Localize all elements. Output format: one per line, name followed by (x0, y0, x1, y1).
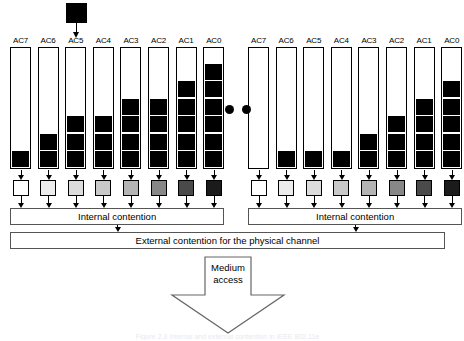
ac-label-ac3: AC3 (357, 36, 381, 45)
queue-to-backoff-arrow (397, 170, 398, 176)
queue-cell (12, 151, 29, 167)
queue-to-backoff-arrow (159, 170, 160, 176)
queue-cell (150, 134, 167, 150)
queue-cell (388, 134, 405, 150)
queue-cell (360, 151, 377, 167)
ac-label-ac5: AC5 (302, 36, 326, 45)
queue-cell (40, 151, 57, 167)
queue-ac6 (38, 47, 59, 169)
queue-ac2 (386, 47, 407, 169)
queue-cell (278, 151, 295, 167)
queue-cell (150, 116, 167, 132)
queue-ac5 (303, 47, 324, 169)
backoff-to-internal-arrow (186, 196, 187, 204)
queue-cell (178, 134, 195, 150)
backoff-counter-ac2 (389, 180, 405, 196)
queue-to-backoff-arrow (76, 170, 77, 176)
backoff-counter-ac7 (251, 180, 267, 196)
medium-access-label-line2: access (198, 274, 258, 285)
backoff-to-internal-arrow (259, 196, 260, 204)
queue-ac3 (358, 47, 379, 169)
ellipsis-dot (208, 105, 217, 114)
queue-cell (40, 134, 57, 150)
queue-cell (178, 116, 195, 132)
queue-ac1 (414, 47, 435, 169)
internal-contention-box[interactable]: Internal contention (248, 208, 462, 225)
queue-cell (388, 116, 405, 132)
queue-cell (178, 151, 195, 167)
ac-label-ac5: AC5 (64, 36, 88, 45)
backoff-counter-ac1 (178, 180, 194, 196)
backoff-counter-ac2 (151, 180, 167, 196)
queue-to-backoff-arrow (214, 170, 215, 176)
internal-to-external-arrow (117, 225, 118, 228)
ac-label-ac2: AC2 (385, 36, 409, 45)
queue-cell (205, 64, 222, 80)
backoff-counter-ac4 (333, 180, 349, 196)
queue-to-backoff-arrow (21, 170, 22, 176)
queue-ac2 (148, 47, 169, 169)
queue-to-backoff-arrow (452, 170, 453, 176)
queue-cell (443, 134, 460, 150)
queue-cell (205, 134, 222, 150)
ac-label-ac6: AC6 (36, 36, 60, 45)
queue-cell (360, 134, 377, 150)
backoff-counter-ac3 (123, 180, 139, 196)
queue-to-backoff-arrow (259, 170, 260, 176)
queue-to-backoff-arrow (103, 170, 104, 176)
queue-cell (95, 134, 112, 150)
ac-label-ac4: AC4 (91, 36, 115, 45)
ellipsis-dot (225, 105, 234, 114)
backoff-counter-ac7 (13, 180, 29, 196)
ellipsis-dot (242, 105, 251, 114)
backoff-counter-ac5 (306, 180, 322, 196)
queue-cell (178, 99, 195, 115)
queue-ac4 (93, 47, 114, 169)
internal-contention-box[interactable]: Internal contention (10, 208, 224, 225)
backoff-to-internal-arrow (341, 196, 342, 204)
ac-label-ac3: AC3 (119, 36, 143, 45)
queue-to-backoff-arrow (286, 170, 287, 176)
queue-cell (416, 116, 433, 132)
backoff-to-internal-arrow (369, 196, 370, 204)
queue-to-backoff-arrow (48, 170, 49, 176)
queue-cell (416, 99, 433, 115)
queue-cell (178, 81, 195, 97)
queue-to-backoff-arrow (186, 170, 187, 176)
queue-cell (95, 151, 112, 167)
queue-cell (150, 151, 167, 167)
incoming-packet-arrow (76, 22, 77, 33)
queue-cell (443, 116, 460, 132)
backoff-counter-ac0 (206, 180, 222, 196)
queue-ac1 (176, 47, 197, 169)
medium-access-label-line1: Medium (198, 262, 258, 273)
external-contention-box[interactable]: External contention for the physical cha… (10, 232, 445, 249)
queue-to-backoff-arrow (369, 170, 370, 176)
internal-to-external-arrow (355, 225, 356, 228)
queue-ac0 (441, 47, 462, 169)
queue-to-backoff-arrow (131, 170, 132, 176)
backoff-to-internal-arrow (286, 196, 287, 204)
queue-to-backoff-arrow (314, 170, 315, 176)
backoff-to-internal-arrow (314, 196, 315, 204)
queue-cell (122, 134, 139, 150)
backoff-to-internal-arrow (131, 196, 132, 204)
backoff-to-internal-arrow (21, 196, 22, 204)
figure-caption: Figure 2.3 Internal and external content… (0, 333, 455, 340)
queue-cell (67, 116, 84, 132)
backoff-to-internal-arrow (214, 196, 215, 204)
queue-ac4 (331, 47, 352, 169)
backoff-to-internal-arrow (76, 196, 77, 204)
queue-cell (67, 134, 84, 150)
backoff-counter-ac3 (361, 180, 377, 196)
ac-label-ac0: AC0 (202, 36, 226, 45)
backoff-counter-ac0 (444, 180, 460, 196)
station-ellipsis (208, 105, 251, 114)
ac-label-ac7: AC7 (247, 36, 271, 45)
queue-ac6 (276, 47, 297, 169)
queue-cell (416, 151, 433, 167)
ac-label-ac6: AC6 (274, 36, 298, 45)
queue-cell (122, 99, 139, 115)
queue-cell (205, 116, 222, 132)
